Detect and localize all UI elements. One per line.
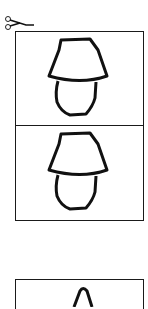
card-2: Lamp drawing card 2 (16, 125, 143, 220)
card-1: Lamp drawing card 1 (16, 32, 143, 126)
lamp-icon (43, 36, 113, 122)
card-3: Lamp drawing card 3 (partially visible) (15, 279, 144, 309)
lamp-shade-icon (68, 283, 98, 307)
card-sheet: Lamp drawing card 1 Lamp drawing card 2 (15, 31, 144, 221)
lamp-icon (43, 130, 113, 216)
